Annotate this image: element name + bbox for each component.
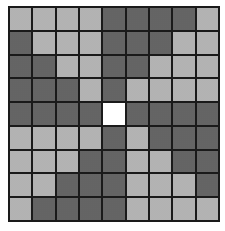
grid-cell-light: [33, 127, 54, 149]
grid-cell-light: [173, 32, 194, 54]
pattern-grid: [8, 6, 220, 222]
grid-cell-light: [57, 151, 78, 173]
grid-cell-light: [80, 8, 101, 30]
grid-cell-dark: [103, 8, 124, 30]
grid-cell-light: [127, 79, 148, 101]
grid-cell-light: [33, 32, 54, 54]
grid-cell-light: [10, 198, 31, 220]
grid-cell-dark: [103, 174, 124, 196]
grid-cell-light: [197, 56, 218, 78]
grid-cell-light: [127, 174, 148, 196]
grid-cell-light: [10, 8, 31, 30]
grid-cell-light: [197, 198, 218, 220]
grid-cell-dark: [173, 127, 194, 149]
grid-cell-dark: [10, 32, 31, 54]
grid-cell-light: [33, 174, 54, 196]
grid-cell-light: [80, 127, 101, 149]
grid-cell-dark: [173, 151, 194, 173]
grid-cell-light: [80, 56, 101, 78]
grid-cell-dark: [150, 8, 171, 30]
grid-cell-dark: [103, 151, 124, 173]
grid-cell-light: [10, 174, 31, 196]
grid-cell-light: [80, 32, 101, 54]
grid-cell-dark: [103, 198, 124, 220]
grid-cell-dark: [103, 32, 124, 54]
grid-cell-dark: [80, 174, 101, 196]
grid-cell-dark: [173, 103, 194, 125]
grid-cell-dark: [10, 103, 31, 125]
grid-cell-light: [173, 198, 194, 220]
grid-cell-light: [197, 79, 218, 101]
grid-cell-light: [10, 151, 31, 173]
grid-cell-light: [57, 56, 78, 78]
grid-cell-dark: [33, 198, 54, 220]
grid-cell-dark: [57, 103, 78, 125]
grid-cell-light: [33, 151, 54, 173]
grid-cell-dark: [197, 127, 218, 149]
grid-cell-dark: [80, 103, 101, 125]
grid-cell-light: [150, 79, 171, 101]
grid-cell-light: [173, 56, 194, 78]
grid-cell-light: [33, 8, 54, 30]
grid-cell-light: [173, 174, 194, 196]
grid-cell-dark: [150, 32, 171, 54]
grid-cell-dark: [33, 79, 54, 101]
grid-cell-dark: [127, 32, 148, 54]
grid-cell-dark: [103, 56, 124, 78]
grid-cell-dark: [80, 198, 101, 220]
grid-cell-light: [57, 8, 78, 30]
grid-cell-light: [150, 56, 171, 78]
grid-cell-dark: [173, 8, 194, 30]
grid-cell-light: [150, 198, 171, 220]
grid-cell-dark: [10, 56, 31, 78]
grid-cell-light: [57, 127, 78, 149]
grid-cell-dark: [150, 127, 171, 149]
grid-cell-light: [127, 151, 148, 173]
grid-cell-dark: [57, 174, 78, 196]
grid-cell-dark: [57, 198, 78, 220]
grid-cell-dark: [127, 103, 148, 125]
grid-cell-dark: [103, 79, 124, 101]
grid-cell-dark: [127, 8, 148, 30]
grid-cell-dark: [127, 56, 148, 78]
grid-cell-light: [80, 79, 101, 101]
grid-cell-dark: [103, 127, 124, 149]
grid-cell-light: [197, 8, 218, 30]
grid-cell-dark: [197, 151, 218, 173]
grid-cell-light: [127, 198, 148, 220]
grid-cell-dark: [150, 103, 171, 125]
grid-cell-light: [150, 151, 171, 173]
grid-cell-dark: [33, 56, 54, 78]
grid-cell-dark: [10, 79, 31, 101]
grid-cell-light: [127, 127, 148, 149]
grid-cell-dark: [197, 103, 218, 125]
grid-cell-light: [150, 174, 171, 196]
grid-cell-light: [197, 32, 218, 54]
grid-cell-dark: [33, 103, 54, 125]
grid-cell-light: [10, 127, 31, 149]
grid-cell-dark: [197, 174, 218, 196]
center-cell-white: [103, 103, 124, 125]
grid-cell-dark: [80, 151, 101, 173]
grid-cell-light: [57, 32, 78, 54]
grid-cell-dark: [57, 79, 78, 101]
grid-cell-light: [173, 79, 194, 101]
